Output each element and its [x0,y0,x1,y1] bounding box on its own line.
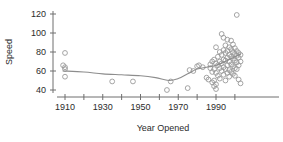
x-tick-label-1950: 1950 [130,102,150,112]
x-axis: 19101930195019701990 [55,94,279,112]
x-axis-tick-labels: 19101930195019701990 [55,102,226,112]
data-point [165,88,170,93]
scatter-plot-figure: 406080100120 19101930195019701990 Year O… [0,0,283,142]
data-point-group [61,13,243,93]
y-tick-label-60: 60 [36,66,46,76]
data-point [63,74,68,79]
x-axis-title: Year Opened [137,123,190,133]
x-tick-label-1930: 1930 [93,102,113,112]
data-point [234,13,239,18]
y-axis-title: Speed [4,39,14,65]
x-tick-label-1970: 1970 [168,102,188,112]
data-point [110,79,115,84]
y-tick-label-100: 100 [31,28,46,38]
x-tick-label-1990: 1990 [206,102,226,112]
data-point [185,86,190,91]
y-tick-label-80: 80 [36,47,46,57]
data-point [214,45,219,50]
data-point [63,51,68,56]
y-axis: 406080100120 [31,9,56,95]
data-point [223,78,228,83]
y-axis-tick-labels: 406080100120 [31,9,46,95]
data-point [131,79,136,84]
x-tick-label-1910: 1910 [55,102,75,112]
plot-canvas: 406080100120 19101930195019701990 Year O… [0,0,283,142]
y-tick-label-120: 120 [31,9,46,19]
trend-line [63,54,240,81]
y-tick-label-40: 40 [36,85,46,95]
